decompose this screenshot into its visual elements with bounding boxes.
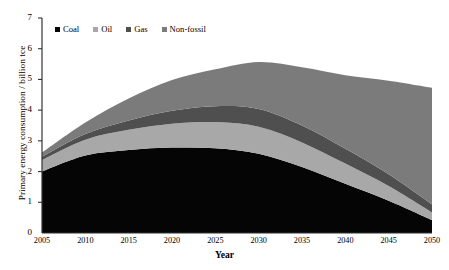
legend-swatch-icon (93, 27, 98, 32)
plot-area (0, 0, 449, 270)
legend-label: Oil (101, 24, 112, 34)
stacked-area-chart: Primary energy consumption / billion tce… (0, 0, 449, 270)
legend-item-gas[interactable]: Gas (126, 24, 147, 34)
chart-legend: CoalOilGasNon-fossil (55, 24, 220, 34)
legend-item-coal[interactable]: Coal (55, 24, 79, 34)
legend-swatch-icon (55, 27, 60, 32)
legend-item-non-fossil[interactable]: Non-fossil (162, 24, 206, 34)
legend-label: Gas (134, 24, 147, 34)
legend-swatch-icon (162, 27, 167, 32)
legend-swatch-icon (126, 27, 131, 32)
legend-item-oil[interactable]: Oil (93, 24, 112, 34)
legend-label: Non-fossil (170, 24, 206, 34)
legend-label: Coal (63, 24, 79, 34)
